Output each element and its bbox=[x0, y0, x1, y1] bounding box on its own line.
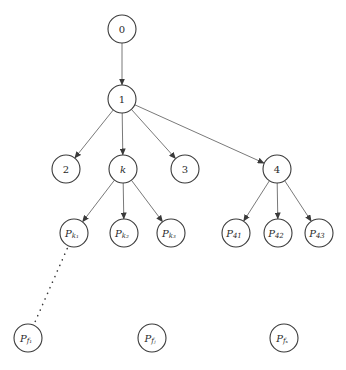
node-subscript: f₁ bbox=[26, 337, 33, 345]
node-subscript: 43 bbox=[315, 232, 325, 240]
node-n1: 1 bbox=[108, 85, 136, 113]
edge-n1-to-n2 bbox=[75, 110, 114, 158]
edge-n1-to-n4 bbox=[135, 105, 264, 163]
node-subscript: k₁ bbox=[72, 232, 79, 240]
node-pk2: Pk₂ bbox=[110, 219, 138, 247]
nodes: 012k34Pk₁Pk₂Pk₃P41P42P43Pf₁PfⱼPfₛ bbox=[14, 15, 333, 352]
edge-n1-to-nk bbox=[122, 113, 123, 155]
edge-nk-to-pk2 bbox=[123, 183, 124, 219]
edge-n4-to-p43 bbox=[285, 181, 312, 222]
node-p41: P41 bbox=[222, 219, 250, 247]
node-subscript: 41 bbox=[232, 232, 242, 240]
edge-n4-to-p41 bbox=[244, 181, 270, 221]
node-n2: 2 bbox=[52, 155, 80, 183]
node-label: 2 bbox=[63, 164, 69, 175]
node-p42: P42 bbox=[264, 219, 292, 247]
edges bbox=[35, 43, 312, 322]
node-label: k bbox=[120, 164, 126, 175]
edge-nk-to-pk3 bbox=[131, 180, 162, 222]
edge-n1-to-n3 bbox=[131, 109, 175, 158]
edge-n4-to-p42 bbox=[277, 183, 278, 219]
tree-diagram: 012k34Pk₁Pk₂Pk₃P41P42P43Pf₁PfⱼPfₛ bbox=[0, 0, 346, 370]
node-label: 1 bbox=[119, 94, 125, 105]
node-subscript: k₃ bbox=[169, 232, 176, 240]
node-pf1: Pf₁ bbox=[14, 324, 42, 352]
node-n0: 0 bbox=[108, 15, 136, 43]
node-nk: k bbox=[109, 155, 137, 183]
node-pfs: Pfₛ bbox=[270, 324, 298, 352]
edge-nk-to-pk1 bbox=[83, 180, 115, 222]
edge-pk1-to-pf1 bbox=[35, 249, 67, 323]
node-n4: 4 bbox=[263, 155, 291, 183]
node-subscript: fⱼ bbox=[150, 337, 156, 345]
node-label: 0 bbox=[119, 24, 125, 35]
node-pk1: Pk₁ bbox=[60, 219, 88, 247]
node-n3: 3 bbox=[171, 155, 199, 183]
node-label: 3 bbox=[182, 164, 188, 175]
node-pfj: Pfⱼ bbox=[138, 324, 166, 352]
node-p43: P43 bbox=[305, 219, 333, 247]
node-pk3: Pk₃ bbox=[157, 219, 185, 247]
node-subscript: fₛ bbox=[282, 337, 289, 345]
node-subscript: k₂ bbox=[122, 232, 129, 240]
node-subscript: 42 bbox=[274, 232, 284, 240]
node-label: 4 bbox=[274, 164, 280, 175]
